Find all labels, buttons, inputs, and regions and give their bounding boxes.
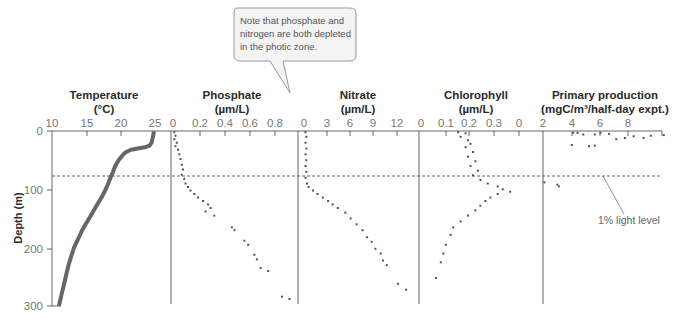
data-point: [193, 193, 195, 195]
svg-text:0.8: 0.8: [267, 117, 283, 129]
data-point: [472, 151, 474, 153]
svg-text:0.2: 0.2: [461, 117, 477, 129]
phosphate-unit: (µm/L): [215, 103, 250, 115]
primary-production-title: Primary production: [552, 89, 658, 101]
svg-text:15: 15: [81, 117, 94, 129]
data-point: [474, 160, 476, 162]
data-point: [260, 267, 262, 269]
data-point: [440, 261, 442, 263]
svg-text:0.3: 0.3: [486, 117, 502, 129]
data-point: [615, 138, 617, 140]
data-point: [594, 145, 596, 147]
temperature-unit: (°C): [94, 103, 115, 115]
primary-production-unit: (mgC/m³/half-day expt.): [541, 103, 669, 115]
data-point: [187, 186, 189, 188]
data-point: [231, 226, 233, 228]
data-point: [306, 183, 308, 185]
x-tick-labels: 10 15 20 25 0 0.2 0.4 0.6 0.8 0 3 6 9 12…: [46, 117, 632, 129]
data-point: [643, 137, 645, 139]
data-point: [243, 240, 245, 242]
data-point: [467, 139, 469, 141]
data-point: [594, 134, 596, 136]
data-point: [180, 158, 182, 160]
data-point: [256, 258, 258, 260]
svg-text:3: 3: [324, 117, 330, 129]
nitrate-unit: (µm/L): [341, 103, 376, 115]
data-point: [182, 169, 184, 171]
svg-text:0: 0: [37, 125, 43, 137]
data-point: [305, 165, 307, 167]
data-point: [356, 223, 358, 225]
chlorophyll-title: Chlorophyll: [444, 89, 508, 101]
data-point: [382, 260, 384, 262]
data-point: [371, 241, 373, 243]
data-point: [558, 185, 560, 187]
callout: Note that phosphate and nitrogen are bot…: [234, 8, 356, 93]
data-point: [305, 159, 307, 161]
data-point: [450, 234, 452, 236]
data-point: [173, 138, 175, 140]
data-point: [175, 135, 177, 137]
data-point: [305, 142, 307, 144]
svg-text:100: 100: [24, 184, 43, 196]
data-point: [509, 191, 511, 193]
light-level-label: 1% light level: [598, 214, 660, 226]
callout-line-1: Note that phosphate and: [240, 15, 344, 26]
svg-text:0.1: 0.1: [438, 117, 454, 129]
data-point: [380, 253, 382, 255]
data-point: [185, 183, 187, 185]
data-point: [305, 171, 307, 173]
svg-text:2: 2: [540, 117, 546, 129]
data-point: [247, 244, 249, 246]
data-point: [207, 204, 209, 206]
data-point: [289, 298, 291, 300]
data-point: [487, 183, 489, 185]
light-level-leader: [603, 176, 624, 214]
svg-text:0.6: 0.6: [242, 117, 258, 129]
data-point: [344, 212, 346, 214]
data-point: [322, 197, 324, 199]
data-point: [175, 145, 177, 147]
data-point: [474, 209, 476, 211]
temperature-profile: [59, 131, 154, 306]
data-point: [305, 148, 307, 150]
temperature-title: Temperature: [70, 89, 139, 101]
data-point: [337, 207, 339, 209]
svg-text:4: 4: [569, 117, 576, 129]
depth-axis: 0 100 200 300 Depth (m): [12, 125, 43, 312]
data-point: [470, 143, 472, 145]
data-point: [332, 204, 334, 206]
data-point: [452, 226, 454, 228]
data-point: [205, 211, 207, 213]
svg-text:0: 0: [301, 117, 307, 129]
data-point: [213, 215, 215, 217]
svg-text:0: 0: [170, 117, 176, 129]
data-point: [663, 134, 665, 136]
data-point: [210, 207, 212, 209]
data-point: [267, 270, 269, 272]
data-point: [497, 185, 499, 187]
data-point: [497, 193, 499, 195]
data-point: [327, 200, 329, 202]
data-point: [543, 181, 545, 183]
data-point: [386, 264, 388, 266]
data-point: [305, 177, 307, 179]
data-point: [350, 218, 352, 220]
data-point: [317, 193, 319, 195]
svg-text:20: 20: [115, 117, 128, 129]
data-point: [312, 190, 314, 192]
data-point: [582, 134, 584, 136]
data-point: [183, 178, 185, 180]
data-point: [178, 153, 180, 155]
nitrate-title: Nitrate: [340, 89, 376, 101]
chlorophyll-unit: (µm/L): [459, 103, 494, 115]
data-point: [362, 229, 364, 231]
data-plots: [59, 131, 665, 306]
data-point: [600, 132, 602, 134]
data-point: [465, 132, 467, 134]
data-point: [572, 132, 574, 134]
depth-axis-label: Depth (m): [12, 192, 24, 244]
phosphate-title: Phosphate: [203, 89, 262, 101]
data-point: [281, 296, 283, 298]
data-point: [253, 254, 255, 256]
